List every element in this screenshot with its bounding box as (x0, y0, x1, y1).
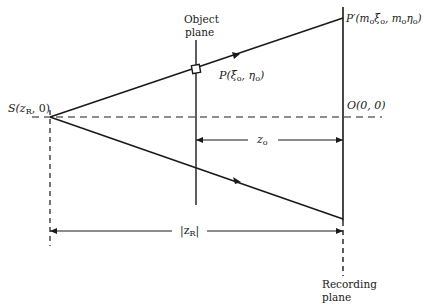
recording-plane-label: Recording plane (322, 278, 377, 304)
origin-label: O(0, 0) (347, 100, 386, 111)
object-plane-label: Object plane (184, 13, 219, 39)
object-point-marker (191, 64, 200, 73)
diagram-canvas (0, 0, 424, 305)
image-point-label: P′(moξo, moηo) (346, 13, 422, 26)
z-r-label: |zR| (180, 225, 199, 238)
object-point-label: P(ξo, ηo) (219, 70, 264, 83)
source-label: S(zR, 0) (8, 103, 50, 116)
z-o-label: zo (257, 134, 268, 147)
